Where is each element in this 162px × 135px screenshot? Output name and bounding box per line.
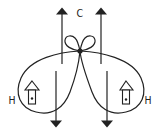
center-node <box>77 48 82 53</box>
right-house-icon <box>120 81 133 104</box>
label-top-center: C <box>77 8 84 19</box>
label-right: H <box>145 95 152 106</box>
small-left-petal <box>65 36 80 51</box>
right-lobe <box>80 51 144 113</box>
left-lobe <box>18 51 80 113</box>
left-house-icon <box>25 81 39 104</box>
label-left: H <box>9 95 16 106</box>
lobe-diagram: C H H <box>0 0 162 135</box>
small-right-petal <box>80 36 95 51</box>
diagram-svg <box>0 0 162 135</box>
